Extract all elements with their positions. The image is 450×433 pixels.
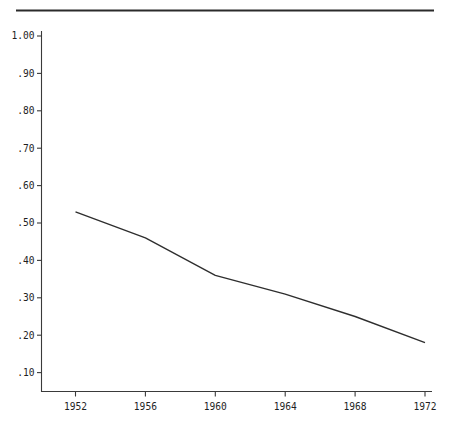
chart-figure: 1.00.90.80.70.60.50.40.30.20.10 19521956… [0,0,450,433]
y-axis-tick-label: .20 [17,330,35,341]
y-axis-tick-label: .10 [17,367,35,378]
y-axis-tick-label: .30 [17,292,35,303]
x-axis-tick-label: 1972 [413,401,436,412]
y-axis-tick-label: .80 [17,105,35,116]
x-axis-tick-label: 1964 [274,401,297,412]
line-chart-canvas: 1.00.90.80.70.60.50.40.30.20.10 19521956… [0,0,450,433]
x-axis-tick-label: 1960 [204,401,227,412]
y-axis-tick-label: .70 [17,143,35,154]
y-axis-tick-label: .60 [17,180,35,191]
y-axis-tick-label: .90 [17,68,35,79]
x-axis-tick-label: 1952 [64,401,87,412]
y-axis-tick-label: 1.00 [11,30,34,41]
x-axis-tick-label: 1968 [344,401,367,412]
y-axis-tick-label: .50 [17,217,35,228]
y-axis-tick-label: .40 [17,255,35,266]
x-axis-tick-label: 1956 [134,401,157,412]
chart-background [0,0,450,433]
